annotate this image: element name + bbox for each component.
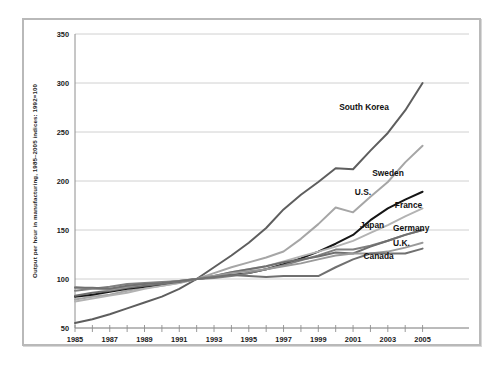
x-tick-label: 1987 [102, 335, 118, 344]
x-tick-label: 1985 [67, 335, 83, 344]
y-tick-label: 200 [57, 177, 69, 186]
series-label-canada: Canada [363, 251, 394, 261]
y-tick-label: 100 [57, 275, 69, 284]
series-label-sweden: Sweden [372, 168, 404, 178]
x-tick-label: 2001 [345, 335, 361, 344]
chart-figure: 50100150200250300350 1985198719891991199… [0, 0, 503, 371]
series-line-u-s [75, 192, 423, 297]
y-tick-label: 250 [57, 128, 69, 137]
y-tick-label: 300 [57, 79, 69, 88]
x-tick-label: 1989 [136, 335, 152, 344]
x-tick-label: 1997 [275, 335, 291, 344]
x-tick-label: 1999 [310, 335, 326, 344]
series-label-germany: Germany [393, 223, 430, 233]
y-tick-label: 150 [57, 226, 69, 235]
series-labels: South KoreaSwedenU.S.FranceJapanGermanyU… [339, 102, 430, 261]
series-label-u-s: U.S. [355, 187, 371, 197]
y-axis-title: Output per hour in manufacturing, 1985–2… [31, 84, 38, 278]
series-label-south-korea: South Korea [339, 102, 389, 112]
data-series-lines [75, 83, 423, 323]
series-label-u-k: U.K. [393, 238, 410, 248]
x-tick-label: 1991 [171, 335, 187, 344]
series-line-u-k [75, 243, 423, 290]
line-chart: 50100150200250300350 1985198719891991199… [24, 20, 479, 344]
y-tick-label: 350 [57, 30, 69, 39]
x-tick-labels: 1985198719891991199319951997199920012003… [67, 335, 431, 344]
x-tick-label: 2003 [380, 335, 396, 344]
x-tickmarks [75, 325, 423, 332]
y-axis-title-text: Output per hour in manufacturing, 1985–2… [31, 84, 38, 278]
x-tick-label: 1993 [206, 335, 222, 344]
series-label-japan: Japan [360, 220, 384, 230]
y-tick-label: 50 [61, 324, 69, 333]
chart-frame: 50100150200250300350 1985198719891991199… [22, 18, 481, 346]
series-label-france: France [395, 200, 423, 210]
x-tick-label: 2005 [414, 335, 430, 344]
x-tick-label: 1995 [241, 335, 257, 344]
y-tick-labels: 50100150200250300350 [57, 30, 69, 333]
